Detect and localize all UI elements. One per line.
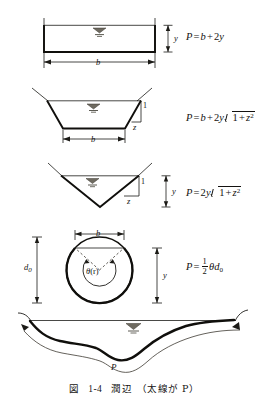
caption-note: （太線が P） (137, 383, 199, 394)
formula-tri-radical: 1+z2 (211, 186, 241, 199)
rectangular-channel-drawing (44, 18, 173, 68)
label-tri-slope-run: z (127, 196, 130, 206)
triangular-channel-drawing (48, 163, 171, 207)
figure-sheet: b y 1 z b 1 z y b d0 y θ(r) P P=b+2y P=b… (0, 0, 268, 404)
formula-tri-one: 1 (219, 187, 224, 198)
water-surface-symbol-3 (86, 179, 99, 187)
label-circ-diameter-sub: 0 (28, 266, 32, 274)
irregular-channel-drawing (18, 310, 248, 372)
water-surface-symbol-1 (93, 28, 106, 36)
label-tri-depth: y (172, 186, 176, 196)
water-surface-symbol-5 (126, 324, 141, 334)
formula-rect-y: y (219, 31, 224, 42)
formula-trap-plus: + (206, 112, 214, 123)
channel-cross-section-drawings (0, 0, 268, 404)
label-trap-slope-rise: 1 (143, 101, 147, 110)
formula-circ-numerator: 1 (202, 257, 208, 266)
formula-circ-denominator: 2 (202, 266, 208, 276)
label-trap-width: b (91, 134, 95, 144)
water-surface-symbol-2 (87, 104, 100, 112)
label-rect-width: b (96, 57, 100, 67)
formula-tri-exp: 2 (237, 187, 241, 195)
formula-triangular: P=2y1+z2 (186, 186, 241, 199)
formula-trap-exp: 2 (250, 112, 254, 120)
label-circ-depth: y (163, 270, 167, 280)
formula-trap-radical: 1+z2 (225, 111, 255, 124)
caption-title: 潤辺 (111, 383, 132, 394)
label-circ-width: b (96, 228, 100, 238)
formula-trap-plus2: + (238, 112, 246, 123)
formula-circ-half: 12 (202, 257, 208, 275)
formula-trapezoidal: P=b+2y1+z2 (186, 111, 255, 124)
figure-caption: 図1-4潤辺（太線が P） (0, 381, 268, 395)
caption-label: 図 (69, 383, 79, 394)
formula-rect-plus: + (206, 31, 214, 42)
formula-trap-y: y (219, 112, 224, 123)
label-tri-slope-rise: 1 (141, 177, 145, 186)
formula-circular: P=12θd0 (186, 257, 223, 275)
formula-circ-d-sub: 0 (220, 266, 224, 274)
formula-tri-plus: + (225, 187, 233, 198)
formula-tri-equals: = (193, 187, 201, 198)
formula-circ-equals: = (193, 261, 201, 272)
formula-circ-lhs: P (186, 261, 193, 272)
label-trap-slope-run: z (133, 122, 136, 132)
label-circ-angle-unit: (r) (90, 266, 99, 276)
label-irregular-perimeter: P (111, 362, 117, 372)
formula-rectangular: P=b+2y (186, 31, 224, 42)
formula-rect-lhs: P (186, 31, 193, 42)
formula-trap-equals: = (193, 112, 201, 123)
formula-trap-lhs: P (186, 112, 193, 123)
formula-tri-y: y (206, 187, 211, 198)
label-rect-depth: y (174, 33, 178, 43)
formula-rect-equals: = (193, 31, 201, 42)
caption-number: 1-4 (88, 384, 102, 394)
formula-tri-lhs: P (186, 187, 193, 198)
